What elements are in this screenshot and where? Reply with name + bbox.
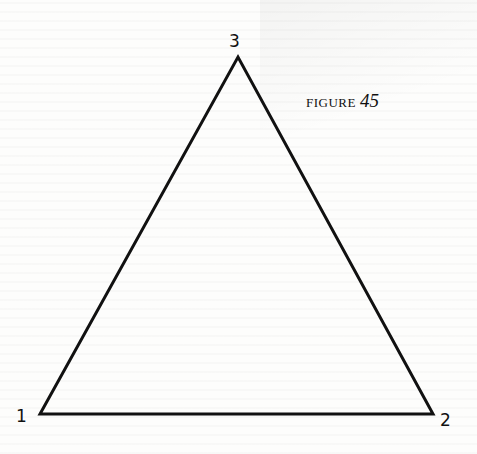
caption-number: 45 <box>360 90 379 111</box>
caption-word: FIGURE <box>306 95 356 110</box>
vertex-label-3: 3 <box>229 33 240 50</box>
triangle-diagram <box>0 0 477 454</box>
vertex-label-2: 2 <box>440 412 451 429</box>
figure-caption: FIGURE45 <box>306 90 379 112</box>
vertex-label-1: 1 <box>16 408 27 425</box>
